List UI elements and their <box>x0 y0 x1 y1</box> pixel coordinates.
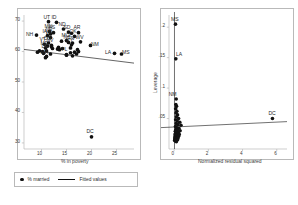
right-x-tick-3: 6 <box>274 152 277 157</box>
left-label-ID: ID <box>52 15 57 20</box>
scatter-plot-right <box>161 9 293 159</box>
left-label-LA: LA <box>105 50 111 55</box>
right-label-LA: LA <box>176 52 182 57</box>
left-x-tick-2: 20 <box>87 152 92 157</box>
left-label-KY: KY <box>67 38 74 43</box>
right-x-tick-0: 0 <box>172 152 175 157</box>
right-label-NM: NM <box>169 92 177 97</box>
right-y-tick-3: .05 <box>156 115 165 120</box>
left-x-tick-0: 10 <box>37 152 42 157</box>
left-y-tick-0: 70 <box>11 18 20 23</box>
line-segment-icon <box>58 179 75 180</box>
left-y-tick-3: 40 <box>11 109 20 114</box>
right-label-DC: DC <box>268 111 275 116</box>
left-label-NM: NM <box>91 42 99 47</box>
left-y-tick-2: 50 <box>11 79 20 84</box>
scatter-plot-left <box>18 9 140 159</box>
left-x-tick-3: 25 <box>112 152 117 157</box>
right-y-tick-1: .15 <box>156 54 165 59</box>
right-y-axis-title: Leverage <box>153 72 158 93</box>
filled-circle-icon <box>20 178 24 182</box>
leverage-residual-panel <box>160 8 294 160</box>
left-label-UT: UT <box>44 15 51 20</box>
left-label-MS: MS <box>122 50 129 55</box>
right-x-axis-title: Normalized residual squared <box>198 159 262 164</box>
legend-marker-label: % married <box>28 177 50 182</box>
left-label-DE: DE <box>42 44 49 49</box>
right-y-tick-0: .2 <box>156 24 165 29</box>
figure-canvas: 7060504030 10152025 UTIDNHMNKSNEIAWINDSD… <box>0 0 298 205</box>
left-x-axis-title: % in poverty <box>61 159 89 164</box>
right-label-MS: MS <box>171 17 178 22</box>
legend-line-label: Fitted values <box>79 177 106 182</box>
left-x-tick-1: 15 <box>62 152 67 157</box>
left-label-DC: DC <box>87 129 94 134</box>
scatter-panel-married-poverty <box>17 8 141 160</box>
left-label-NH: NH <box>26 32 33 37</box>
right-x-tick-1: 2 <box>206 152 209 157</box>
right-x-tick-2: 4 <box>240 152 243 157</box>
left-y-tick-4: 30 <box>11 140 20 145</box>
left-label-MA: MA <box>41 50 48 55</box>
left-label-WV: WV <box>76 35 84 40</box>
left-label-FL: FL <box>62 47 68 52</box>
left-y-tick-1: 60 <box>11 48 20 53</box>
legend: % married Fitted values <box>14 172 138 187</box>
